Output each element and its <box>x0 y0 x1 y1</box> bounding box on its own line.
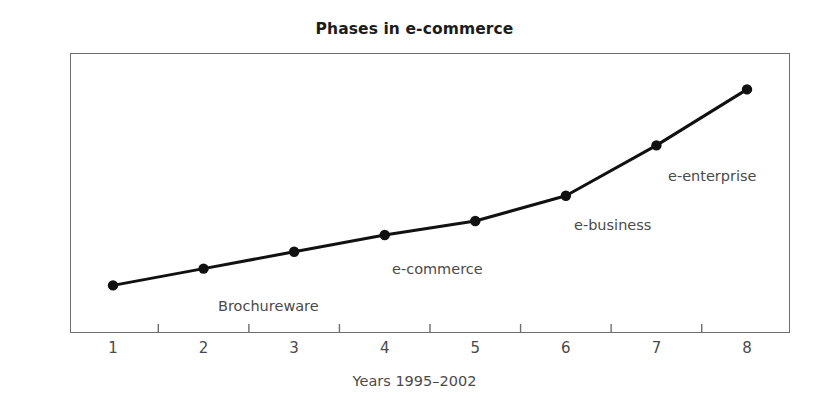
x-tick-label-5: 5 <box>455 339 495 357</box>
annotation-brochureware: Brochureware <box>218 298 319 314</box>
annotation-e-enterprise: e-enterprise <box>668 168 757 184</box>
x-tick-label-4: 4 <box>365 339 405 357</box>
chart-figure: Phases in e-commerce Business impact Yea… <box>0 0 829 413</box>
annotation-e-commerce: e-commerce <box>392 261 483 277</box>
annotation-e-business: e-business <box>574 217 651 233</box>
x-tick-label-8: 8 <box>727 339 767 357</box>
x-tick-label-7: 7 <box>636 339 676 357</box>
chart-title: Phases in e-commerce <box>0 20 829 38</box>
x-tick-label-1: 1 <box>93 339 133 357</box>
x-tick-label-2: 2 <box>184 339 224 357</box>
x-axis-label: Years 1995–2002 <box>0 373 829 389</box>
x-tick-label-6: 6 <box>546 339 586 357</box>
x-tick-label-3: 3 <box>274 339 314 357</box>
plot-area-frame <box>70 53 790 333</box>
